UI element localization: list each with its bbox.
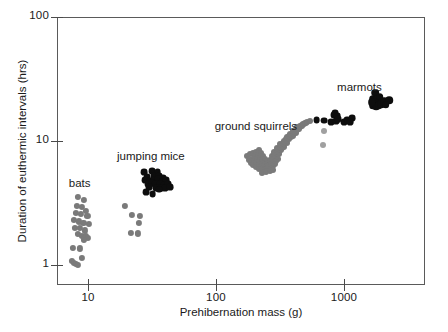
cluster-label-marmots: marmots	[337, 81, 382, 93]
data-point	[320, 142, 326, 148]
scatter-plot-figure: 110100101001000 batsjumping miceground s…	[0, 0, 448, 332]
y-axis-tick-label: 10	[36, 133, 49, 145]
data-point	[347, 119, 354, 126]
y-axis-title: Duration of euthermic intervals (hrs)	[16, 17, 32, 285]
data-point	[270, 167, 276, 173]
data-point	[307, 118, 313, 124]
x-axis-tick-label: 100	[206, 291, 226, 303]
y-axis-tick	[51, 265, 63, 266]
x-axis-tick	[344, 279, 345, 291]
y-axis-tick-label: 1	[42, 257, 49, 269]
data-point	[313, 116, 320, 123]
cluster-label-jumping-mice: jumping mice	[117, 150, 185, 162]
x-axis-tick-label: 1000	[331, 291, 357, 303]
plot-area-frame	[57, 17, 425, 285]
y-axis-tick	[51, 141, 63, 142]
data-point	[166, 184, 173, 191]
data-point	[156, 186, 163, 193]
data-point	[382, 101, 390, 109]
x-axis-tick-label: 10	[81, 291, 94, 303]
cluster-label-ground-squirrels: ground squirrels	[215, 120, 297, 132]
x-axis-tick	[216, 279, 217, 291]
x-axis-tick	[88, 279, 89, 291]
data-point	[149, 190, 156, 197]
x-axis-title: Prehibernation mass (g)	[57, 306, 425, 318]
cluster-label-bats: bats	[69, 177, 91, 189]
data-point	[321, 128, 327, 134]
y-axis-tick-label: 100	[29, 9, 49, 21]
data-point	[368, 99, 376, 107]
y-axis-tick	[51, 17, 63, 18]
